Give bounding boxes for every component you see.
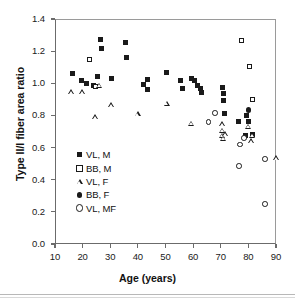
x-axis-tick (165, 244, 166, 248)
y-axis-tick (51, 211, 55, 212)
x-axis-tick (193, 244, 194, 248)
x-axis-tick-label: 70 (211, 251, 231, 262)
open-square-icon (76, 165, 83, 172)
y-axis-tick-label: 0.0 (19, 238, 45, 249)
y-axis-tick (51, 83, 55, 84)
legend-item: VL, M (73, 148, 116, 161)
x-axis-tick (110, 244, 111, 248)
y-axis-title: Type II/I fiber area ratio (14, 9, 26, 239)
x-axis-tick-label: 90 (266, 251, 286, 262)
figure: 0.00.20.40.60.81.01.21.41020304050607080… (0, 0, 295, 301)
y-axis-tick (51, 147, 55, 148)
x-axis-tick-label: 60 (183, 251, 203, 262)
footer-divider (0, 294, 295, 295)
y-axis-tick (51, 115, 55, 116)
x-axis-tick (137, 244, 138, 248)
legend-marker-icon (73, 203, 86, 214)
x-axis-tick-label: 40 (128, 251, 148, 262)
legend-item: VL, MF (73, 202, 116, 215)
x-axis-tick (82, 244, 83, 248)
legend-marker-icon (73, 176, 86, 187)
x-axis-title: Age (years) (0, 272, 295, 284)
x-axis-tick (220, 244, 221, 248)
x-axis-tick-label: 20 (73, 251, 93, 262)
legend-marker-icon (73, 149, 86, 160)
y-axis-tick (51, 51, 55, 52)
x-axis-tick (54, 244, 55, 248)
legend-item-label: BB, M (86, 163, 111, 174)
y-axis-tick (51, 18, 55, 19)
x-axis-tick (275, 244, 276, 248)
open-triangle-icon (77, 179, 83, 184)
legend-marker-icon (73, 163, 86, 174)
x-axis-tick-label: 50 (156, 251, 176, 262)
x-axis-tick-label: 30 (100, 251, 120, 262)
x-axis-tick-label: 80 (238, 251, 258, 262)
legend-item: VL, F (73, 175, 116, 188)
legend-item-label: VL, M (86, 149, 110, 160)
open-circle-icon (76, 204, 84, 212)
y-axis-tick (51, 179, 55, 180)
legend-item: BB, F (73, 188, 116, 201)
footer-divider-secondary (0, 297, 295, 298)
filled-square-icon (77, 152, 82, 157)
x-axis-tick (248, 244, 249, 248)
legend: VL, MBB, MVL, FBB, FVL, MF (73, 148, 116, 215)
filled-circle-icon (77, 192, 83, 198)
legend-item: BB, M (73, 161, 116, 174)
legend-marker-icon (73, 189, 86, 200)
legend-item-label: VL, MF (86, 203, 116, 214)
legend-item-label: VL, F (86, 176, 108, 187)
legend-item-label: BB, F (86, 189, 109, 200)
x-axis-tick-label: 10 (45, 251, 65, 262)
